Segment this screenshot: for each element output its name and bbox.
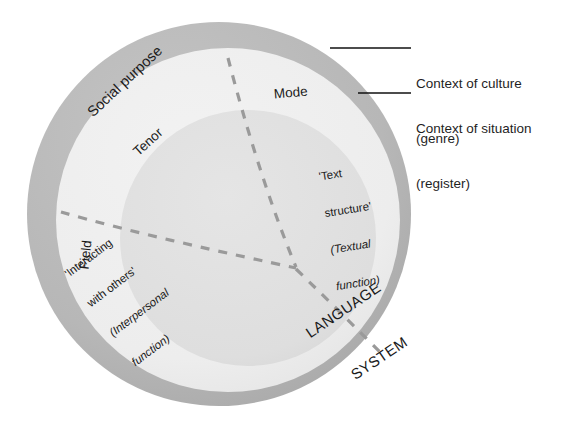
interpersonal-line-4: function) [130, 316, 194, 369]
language-system-line-2: SYSTEM [347, 328, 418, 385]
diagram-canvas: Social purpose Tenor Mode Field 'Interac… [0, 0, 579, 432]
interpersonal-line-2: with others' [85, 257, 149, 310]
textual-line-2: structure' [324, 200, 372, 220]
callout-situation-line-1: Context of situation [416, 120, 532, 138]
textual-line-1: 'Text [318, 163, 366, 183]
interpersonal-line-3: (Interpersonal [107, 287, 171, 340]
language-system-line-1: LANGUAGE [302, 277, 385, 342]
interpersonal-line-1: 'Interacting [62, 227, 126, 280]
callout-situation-line-2: (register) [416, 175, 532, 193]
label-mode: Mode [257, 70, 309, 118]
label-tenor-text: Tenor [130, 125, 165, 159]
label-mode-text: Mode [273, 83, 308, 101]
callout-context-of-situation: Context of situation (register) [416, 84, 532, 230]
